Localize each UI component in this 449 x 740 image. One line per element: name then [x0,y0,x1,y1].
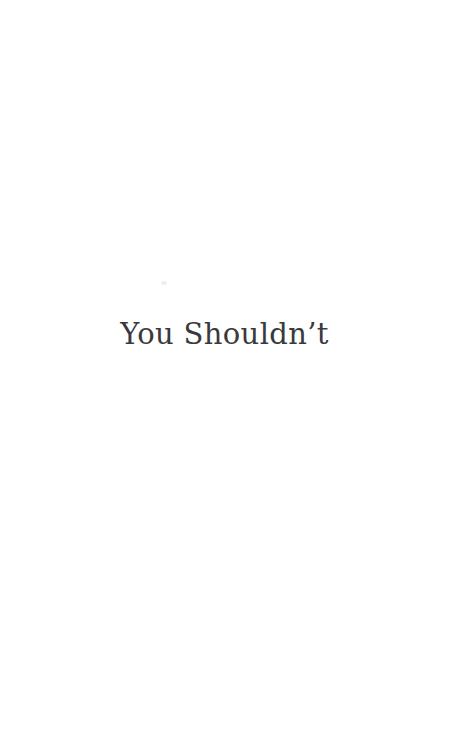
chapter-title-page: You Shouldn’t [0,0,449,740]
title-block: You Shouldn’t [0,0,449,740]
chapter-title: You Shouldn’t [0,317,449,352]
